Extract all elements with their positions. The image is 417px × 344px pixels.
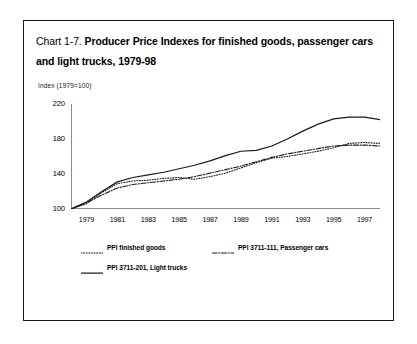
legend-label: PPI finished goods xyxy=(107,244,165,251)
y-tick-label: 180 xyxy=(43,134,65,143)
x-tick-label: 1981 xyxy=(102,215,132,224)
chart-figure: Chart 1-7. Producer Price Indexes for fi… xyxy=(23,20,394,321)
series-line-2 xyxy=(71,117,380,209)
series-line-1 xyxy=(71,145,380,209)
x-tick-label: 1995 xyxy=(319,215,349,224)
legend-entry[interactable]: PPI finished goods xyxy=(81,243,165,251)
x-tick-label: 1993 xyxy=(288,215,318,224)
x-tick-label: 1997 xyxy=(350,215,380,224)
legend-entry[interactable]: PPI 3711-201, Light trucks xyxy=(81,263,187,271)
x-tick-label: 1985 xyxy=(164,215,194,224)
chart-title-prefix: Chart 1-7. xyxy=(36,35,82,47)
y-tick-label: 140 xyxy=(43,169,65,178)
legend-label: PPI 3711-111, Passenger cars xyxy=(238,244,328,251)
series-line-0 xyxy=(71,143,380,210)
plot-svg xyxy=(71,104,380,209)
chart-title-main: Producer Price Indexes for finished good… xyxy=(36,35,373,67)
y-tick-label: 100 xyxy=(43,204,65,213)
x-tick-label: 1989 xyxy=(226,215,256,224)
x-tick-label: 1991 xyxy=(257,215,287,224)
x-tick-label: 1987 xyxy=(195,215,225,224)
x-tick-label: 1983 xyxy=(133,215,163,224)
legend-line-sample-icon xyxy=(212,243,234,251)
y-tick-label: 220 xyxy=(43,99,65,108)
y-axis-label: Index (1979=100) xyxy=(38,82,91,89)
plot-area xyxy=(71,104,380,209)
chart-title: Chart 1-7. Producer Price Indexes for fi… xyxy=(36,30,376,69)
x-tick-label: 1979 xyxy=(71,215,101,224)
legend-line-sample-icon xyxy=(81,263,103,271)
legend-label: PPI 3711-201, Light trucks xyxy=(107,264,187,271)
legend-entry[interactable]: PPI 3711-111, Passenger cars xyxy=(212,243,328,251)
legend-line-sample-icon xyxy=(81,243,103,251)
chart-legend: PPI finished goodsPPI 3711-111, Passenge… xyxy=(24,243,394,289)
